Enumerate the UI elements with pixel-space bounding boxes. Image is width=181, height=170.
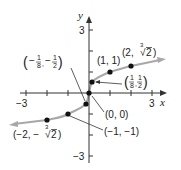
svg-text:(: (: [23, 54, 28, 70]
x-axis-label: x: [159, 96, 165, 108]
point-neg-eighth: [83, 101, 88, 106]
svg-text:): ): [58, 129, 61, 140]
svg-text:): ): [58, 54, 63, 70]
svg-text:8: 8: [37, 62, 41, 69]
svg-text:1: 1: [130, 74, 134, 81]
y-axis-arrow-icon: [86, 16, 92, 23]
label-point-origin: (0, 0): [105, 109, 128, 120]
point-origin: [86, 90, 91, 95]
svg-text:(−2, −: (−2, −: [13, 129, 39, 140]
curve-arrow-right-icon: [157, 57, 166, 63]
svg-text:,: ,: [135, 80, 137, 87]
tick-label-x-neg3: −3: [16, 98, 28, 109]
curve-arrow-left-icon: [9, 121, 18, 127]
svg-text:(: (: [124, 74, 129, 90]
svg-text:1: 1: [138, 74, 142, 81]
svg-text:8: 8: [130, 82, 134, 89]
point-neg2: [44, 117, 49, 122]
label-point-neg-eighth-neg-half: ( − 1 8 , − 1 2 ): [23, 54, 63, 70]
label-point-2-cbrt2: (2, 3 √ 2 ): [122, 42, 156, 58]
svg-text:−: −: [29, 55, 35, 66]
svg-text:2: 2: [146, 47, 152, 58]
cube-root-chart: y x 3 −3 −3 3 (1, 1) (2, 3 √ 2 ) ( 1 8 ,…: [0, 0, 181, 170]
svg-text:2: 2: [138, 82, 142, 89]
svg-text:,: ,: [42, 60, 44, 67]
tick-label-y-neg3: −3: [73, 151, 85, 162]
label-point-1-1: (1, 1): [97, 55, 120, 66]
tick-label-y-3: 3: [79, 25, 85, 36]
leader-lines: [70, 68, 122, 130]
svg-text:2: 2: [53, 62, 57, 69]
point-eighth: [89, 79, 94, 84]
leader-arrow-icon: [95, 80, 100, 84]
tick-label-x-3: 3: [149, 98, 155, 109]
point-2: [128, 63, 133, 68]
svg-text:): ): [153, 47, 156, 58]
svg-text:): ): [143, 74, 148, 90]
svg-text:1: 1: [53, 54, 57, 61]
svg-text:−: −: [45, 55, 51, 66]
point-1: [107, 69, 112, 74]
label-point-neg2-neg-cbrt2: (−2, − 3 √ 2 ): [13, 124, 61, 140]
svg-text:1: 1: [37, 54, 41, 61]
y-axis-label: y: [77, 9, 83, 21]
svg-text:2: 2: [51, 129, 57, 140]
label-point-eighth-half: ( 1 8 , 1 2 ): [124, 74, 148, 90]
svg-text:(2,: (2,: [122, 47, 134, 58]
point-neg1: [65, 111, 70, 116]
label-point-neg1-neg1: (−1, −1): [104, 126, 139, 137]
